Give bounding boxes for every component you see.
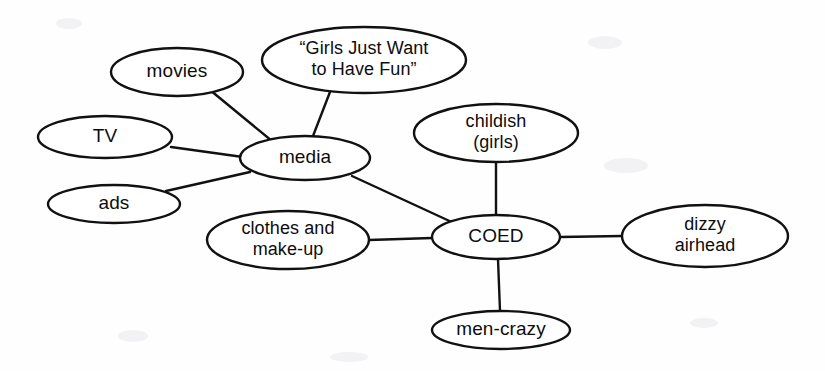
edge-ads-to-media [166, 172, 250, 191]
node-label-dizzy: dizzy [684, 214, 726, 234]
edge-song-to-media [313, 92, 330, 136]
node-label-clothes: make-up [253, 239, 324, 259]
node-coed[interactable]: COED [432, 215, 560, 259]
node-song[interactable]: “Girls Just Wantto Have Fun” [262, 27, 466, 93]
node-mencrazy[interactable]: men-crazy [432, 311, 570, 349]
node-media[interactable]: media [240, 136, 370, 180]
node-label-tv: TV [93, 125, 118, 146]
edge-media-to-coed [352, 176, 456, 224]
diagram-canvas: movies“Girls Just Wantto Have Fun”TVmedi… [0, 0, 825, 371]
node-label-movies: movies [147, 60, 208, 81]
node-label-ads: ads [99, 192, 130, 213]
node-label-dizzy: airhead [675, 235, 736, 255]
node-label-childish: (girls) [473, 132, 519, 152]
edge-clothes-to-coed [369, 238, 432, 240]
node-movies[interactable]: movies [111, 48, 243, 96]
edge-movies-to-media [210, 90, 272, 141]
node-label-song: “Girls Just Want [300, 38, 429, 58]
node-label-mencrazy: men-crazy [456, 318, 546, 339]
concept-map-diagram: movies“Girls Just Wantto Have Fun”TVmedi… [0, 0, 825, 371]
node-label-coed: COED [468, 225, 523, 246]
node-label-clothes: clothes and [241, 218, 334, 238]
node-clothes[interactable]: clothes andmake-up [207, 211, 369, 269]
node-label-media: media [279, 146, 332, 167]
node-tv[interactable]: TV [38, 116, 172, 158]
edge-coed-to-mencrazy [498, 259, 500, 311]
node-label-song: to Have Fun” [311, 59, 416, 79]
node-dizzy[interactable]: dizzyairhead [622, 205, 788, 267]
node-ads[interactable]: ads [48, 185, 180, 223]
edge-coed-to-dizzy [560, 236, 622, 237]
node-label-childish: childish [466, 111, 527, 131]
node-childish[interactable]: childish(girls) [414, 104, 578, 162]
nodes-layer: movies“Girls Just Wantto Have Fun”TVmedi… [38, 27, 788, 349]
edge-tv-to-media [171, 147, 243, 157]
